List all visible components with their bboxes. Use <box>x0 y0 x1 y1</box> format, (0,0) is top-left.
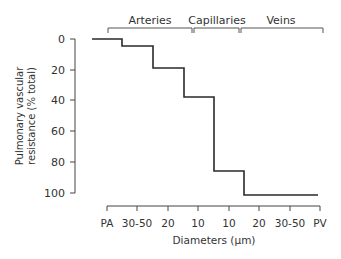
group-label-veins: Veins <box>266 14 295 27</box>
x-tick-10-art: 10 <box>191 217 204 229</box>
y-axis-label-line2: resistance (% total) <box>26 67 37 165</box>
x-tick-labels: PA 30-50 20 10 10 20 30-50 PV <box>101 217 328 229</box>
x-tick-pv: PV <box>313 217 327 229</box>
y-tick-0: 0 <box>58 33 65 46</box>
chart-container: Arteries Capillaries Veins 0 20 40 60 80… <box>0 0 341 259</box>
x-tick-20-art: 20 <box>161 217 174 229</box>
y-tick-80: 80 <box>51 156 65 169</box>
y-axis-label: Pulmonary vascular resistance (% total) <box>14 66 37 166</box>
y-tick-40: 40 <box>51 94 65 107</box>
y-tick-labels: 0 20 40 60 80 100 <box>44 33 65 200</box>
y-tick-20: 20 <box>51 64 65 77</box>
x-tick-30-50-art: 30-50 <box>122 217 153 229</box>
step-chart: Arteries Capillaries Veins 0 20 40 60 80… <box>0 0 341 259</box>
y-tick-60: 60 <box>51 125 65 138</box>
x-axis-label: Diameters (μm) <box>173 234 256 246</box>
veins-bracket <box>241 28 323 33</box>
x-tick-30-50-vein: 30-50 <box>275 217 306 229</box>
x-tick-20-vein: 20 <box>252 217 265 229</box>
resistance-step-line <box>92 39 318 195</box>
x-tick-pa: PA <box>101 217 115 229</box>
group-brackets <box>108 28 323 33</box>
capillaries-bracket <box>194 28 239 33</box>
x-axis <box>107 206 320 211</box>
y-axis-label-line1: Pulmonary vascular <box>14 66 25 166</box>
y-tick-100: 100 <box>44 187 65 200</box>
arteries-bracket <box>108 28 192 33</box>
group-label-arteries: Arteries <box>128 14 171 27</box>
group-label-capillaries: Capillaries <box>188 14 246 27</box>
y-axis <box>70 39 75 193</box>
x-tick-10-vein: 10 <box>222 217 235 229</box>
